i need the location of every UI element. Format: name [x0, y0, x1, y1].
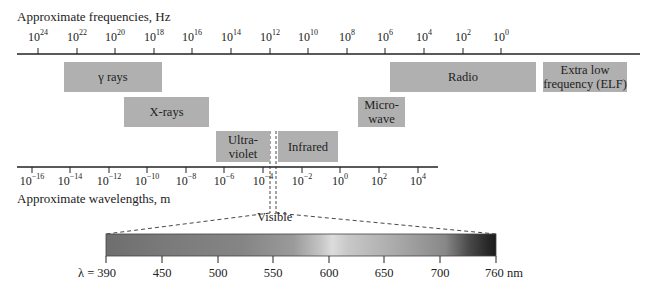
frequency-tick-label: 104 — [416, 30, 432, 45]
frequency-tick-label: 106 — [377, 30, 393, 45]
visible-spectrum-bar — [106, 234, 496, 256]
visible-fan-right — [276, 213, 496, 234]
visible-ticks — [106, 256, 496, 263]
frequency-tick-label: 1014 — [221, 30, 241, 45]
frequency-tick-label: 1010 — [298, 30, 318, 45]
frequency-ticks — [38, 48, 501, 54]
frequency-tick-label: 1022 — [67, 30, 87, 45]
frequency-tick-label: 100 — [493, 30, 509, 45]
wavelength-tick-label: 104 — [410, 174, 426, 189]
frequency-tick-label: 1024 — [28, 30, 48, 45]
wavelength-tick-label: 10−8 — [176, 174, 197, 189]
frequency-axis-title: Approximate frequencies, Hz — [17, 9, 170, 25]
band-radio: Radio — [390, 62, 536, 92]
visible-tick-label: λ = 390 — [78, 266, 116, 281]
wavelength-tick-label: 10−12 — [97, 174, 122, 189]
wavelength-tick-label: 100 — [332, 174, 348, 189]
wavelength-tick-label: 10−14 — [58, 174, 83, 189]
frequency-tick-label: 108 — [339, 30, 355, 45]
visible-tick-label: 600 — [320, 266, 339, 281]
band-x-rays: X-rays — [124, 97, 209, 127]
wavelength-tick-label: 10−6 — [214, 174, 235, 189]
wavelength-tick-label: 10−4 — [253, 174, 274, 189]
wavelength-tick-label: 10−2 — [292, 174, 313, 189]
band-ultra-violet: Ultra- violet — [216, 131, 270, 162]
wavelength-axis-title: Approximate wavelengths, m — [17, 191, 170, 207]
visible-fan-left — [106, 213, 270, 234]
visible-tick-label: 760 nm — [485, 266, 523, 281]
frequency-tick-label: 1016 — [182, 30, 202, 45]
frequency-tick-label: 1020 — [105, 30, 125, 45]
band-γ-rays: γ rays — [64, 62, 162, 92]
visible-label: Visible — [257, 210, 292, 225]
band-infrared: Infrared — [278, 131, 338, 162]
wavelength-tick-label: 10−10 — [135, 174, 160, 189]
visible-tick-label: 550 — [264, 266, 283, 281]
frequency-tick-label: 1018 — [144, 30, 164, 45]
wavelength-tick-label: 102 — [371, 174, 387, 189]
wavelength-tick-label: 10−16 — [20, 174, 45, 189]
band-micro-wave: Micro- wave — [358, 97, 405, 127]
band-extra-low-frequency-elf: Extra low frequency (ELF) — [543, 62, 627, 92]
visible-tick-label: 650 — [375, 266, 394, 281]
visible-tick-label: 450 — [153, 266, 172, 281]
visible-tick-label: 500 — [209, 266, 228, 281]
frequency-tick-label: 102 — [455, 30, 471, 45]
frequency-tick-label: 1012 — [260, 30, 280, 45]
visible-tick-label: 700 — [431, 266, 450, 281]
